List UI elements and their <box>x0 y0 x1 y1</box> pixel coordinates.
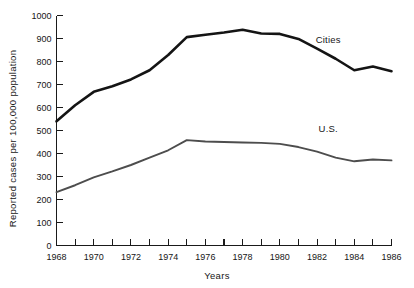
x-tick-label: 1978 <box>233 252 253 262</box>
line-chart: 0100200300400500600700800900100019681970… <box>0 0 414 288</box>
series-label-cities: Cities <box>316 34 341 45</box>
x-tick-label: 1982 <box>307 252 327 262</box>
y-tick-label: 600 <box>36 103 51 113</box>
x-tick-label: 1974 <box>158 252 178 262</box>
x-tick-label: 1970 <box>84 252 104 262</box>
x-tick-label: 1972 <box>121 252 141 262</box>
y-tick-label: 300 <box>36 172 51 182</box>
y-tick-label: 900 <box>36 34 51 44</box>
y-tick-label: 0 <box>46 241 51 251</box>
axis-spine <box>57 16 392 246</box>
y-tick-label: 1000 <box>31 11 51 21</box>
y-tick-label: 800 <box>36 57 51 67</box>
x-axis-title: Years <box>204 270 229 281</box>
x-tick-label: 1968 <box>46 252 66 262</box>
y-axis-title: Reported cases per 100,000 population <box>7 50 18 227</box>
x-tick-label: 1976 <box>195 252 215 262</box>
chart-container: 0100200300400500600700800900100019681970… <box>0 0 414 288</box>
series-line-u-s <box>57 140 392 192</box>
y-tick-label: 400 <box>36 149 51 159</box>
x-tick-label: 1986 <box>381 252 401 262</box>
series-line-cities <box>57 30 392 122</box>
x-tick-label: 1980 <box>270 252 290 262</box>
x-tick-label: 1984 <box>344 252 364 262</box>
y-tick-label: 200 <box>36 195 51 205</box>
y-tick-label: 500 <box>36 126 51 136</box>
y-tick-label: 100 <box>36 218 51 228</box>
series-label-u-s: U.S. <box>319 123 338 134</box>
y-tick-label: 700 <box>36 80 51 90</box>
